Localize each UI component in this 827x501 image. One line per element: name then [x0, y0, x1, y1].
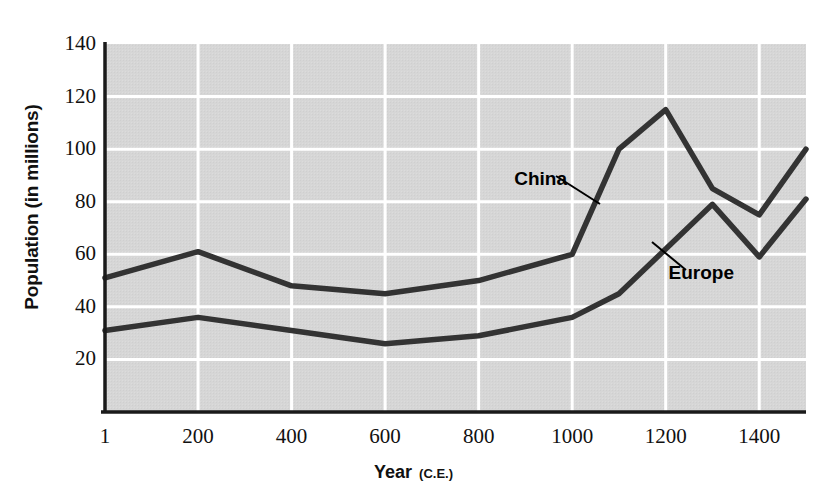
y-tick-label: 80: [36, 189, 96, 214]
y-tick-label: 60: [36, 241, 96, 266]
x-tick-label: 1200: [626, 424, 706, 449]
y-tick-label: 140: [36, 31, 96, 56]
annotation-europe: Europe: [669, 262, 734, 284]
x-tick-label: 1000: [532, 424, 612, 449]
y-tick-label: 40: [36, 294, 96, 319]
plot-texture: [105, 44, 806, 412]
population-line-chart: Population (in millions) Year(C.E.) 2040…: [0, 0, 827, 501]
x-tick-label: 800: [439, 424, 519, 449]
x-tick-label: 1400: [719, 424, 799, 449]
x-axis-title: Year(C.E.): [0, 462, 827, 483]
y-tick-label: 100: [36, 136, 96, 161]
x-axis-title-main: Year: [374, 462, 412, 482]
annotation-china: China: [514, 168, 567, 190]
x-tick-label: 400: [252, 424, 332, 449]
x-tick-label: 200: [158, 424, 238, 449]
y-tick-label: 120: [36, 84, 96, 109]
x-tick-label: 600: [345, 424, 425, 449]
y-tick-label: 20: [36, 346, 96, 371]
x-tick-label: 1: [65, 424, 145, 449]
x-axis-title-suffix: (C.E.): [419, 466, 453, 481]
